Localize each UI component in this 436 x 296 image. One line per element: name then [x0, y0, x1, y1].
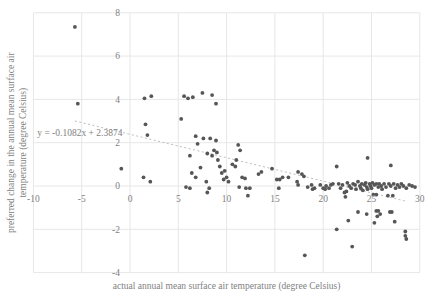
data-point	[233, 165, 237, 169]
data-point	[327, 186, 331, 190]
data-points	[73, 25, 417, 257]
data-point	[404, 237, 408, 241]
data-point	[149, 94, 153, 98]
data-point	[375, 214, 379, 218]
data-point	[244, 186, 248, 190]
svg-text:0: 0	[115, 181, 120, 191]
data-point	[366, 187, 370, 191]
data-point	[404, 186, 408, 190]
data-point	[310, 183, 314, 187]
data-point	[214, 139, 218, 143]
data-point	[370, 186, 374, 190]
data-point	[190, 171, 194, 175]
data-point	[201, 91, 205, 95]
scatter-chart: -10-5051015202530-4-202468y = -0.1082x +…	[0, 0, 436, 296]
data-point	[313, 186, 317, 190]
data-point	[204, 180, 208, 184]
data-point	[246, 194, 250, 198]
data-point	[303, 253, 307, 257]
data-point	[216, 158, 220, 162]
data-point	[398, 185, 402, 189]
svg-text:-2: -2	[112, 225, 120, 235]
data-point	[335, 165, 339, 169]
svg-text:25: 25	[367, 194, 377, 204]
x-axis-tick-labels: -10-5051015202530	[27, 194, 425, 204]
data-point	[199, 166, 203, 170]
data-point	[296, 170, 300, 174]
svg-text:-4: -4	[112, 268, 120, 278]
data-point	[186, 96, 190, 100]
data-point	[143, 96, 147, 100]
svg-text:10: 10	[222, 194, 232, 204]
data-point	[350, 245, 354, 249]
data-point	[346, 219, 350, 223]
svg-text:2: 2	[115, 138, 120, 148]
data-point	[194, 134, 198, 138]
data-point	[243, 177, 247, 181]
data-point	[354, 187, 358, 191]
data-point	[306, 185, 310, 189]
data-point	[390, 210, 394, 214]
data-point	[413, 185, 417, 189]
data-point	[144, 122, 148, 126]
data-point	[223, 169, 227, 173]
data-point	[349, 186, 353, 190]
data-point	[215, 151, 219, 155]
data-point	[207, 186, 211, 190]
data-point	[188, 186, 192, 190]
x-axis-title: actual annual mean surface air temperatu…	[113, 281, 341, 292]
svg-text:4: 4	[115, 95, 120, 105]
data-point	[380, 187, 384, 191]
data-point	[391, 194, 395, 198]
data-point	[210, 93, 214, 97]
data-point	[222, 178, 226, 182]
data-point	[335, 227, 339, 231]
data-point	[341, 183, 345, 187]
chart-canvas: -10-5051015202530-4-202468y = -0.1082x +…	[0, 0, 436, 296]
svg-text:15: 15	[270, 194, 280, 204]
data-point	[302, 174, 306, 178]
data-point	[361, 188, 365, 192]
data-point	[260, 170, 264, 174]
data-point	[356, 210, 360, 214]
svg-text:30: 30	[415, 194, 425, 204]
data-point	[393, 220, 397, 224]
data-point	[188, 154, 192, 158]
svg-text:0: 0	[128, 194, 133, 204]
data-point	[227, 180, 231, 184]
data-point	[345, 190, 349, 194]
data-point	[179, 117, 183, 121]
data-point	[142, 175, 146, 179]
data-point	[236, 143, 240, 147]
data-point	[237, 185, 241, 189]
svg-text:6: 6	[115, 51, 120, 61]
data-point	[76, 102, 80, 106]
data-point	[281, 175, 285, 179]
trendline-equation: y = -0.1082x + 2.3874	[37, 128, 122, 138]
data-point	[365, 212, 369, 216]
data-point	[382, 182, 386, 186]
data-point	[210, 154, 214, 158]
svg-text:-5: -5	[78, 194, 86, 204]
data-point	[205, 152, 209, 156]
data-point	[196, 142, 200, 146]
data-point	[386, 194, 390, 198]
data-point	[389, 164, 393, 168]
data-point	[194, 175, 198, 179]
data-point	[287, 175, 291, 179]
svg-text:-10: -10	[27, 194, 40, 204]
svg-text:temperature (degree Celsius): temperature (degree Celsius)	[18, 88, 29, 198]
gridlines	[33, 13, 419, 273]
data-point	[146, 133, 150, 137]
y-axis-title: preferred change in the annual mean surf…	[6, 52, 29, 233]
svg-text:preferred change in the annual: preferred change in the annual mean surf…	[6, 52, 16, 233]
data-point	[270, 167, 274, 171]
data-point	[394, 186, 398, 190]
data-point	[346, 181, 350, 185]
data-point	[318, 183, 322, 187]
data-point	[353, 183, 357, 187]
data-point	[296, 183, 300, 187]
data-point	[339, 186, 343, 190]
data-point	[238, 148, 242, 152]
data-point	[191, 95, 195, 99]
